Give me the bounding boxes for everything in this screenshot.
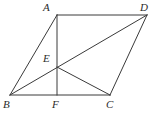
figure-canvas	[0, 0, 157, 127]
vertex-label-e: E	[43, 53, 50, 64]
vertex-label-a: A	[43, 2, 50, 13]
segment-BD	[10, 15, 147, 95]
segment-EC	[57, 67, 110, 95]
geometry-figure: A D E B F C	[0, 0, 157, 127]
vertex-label-c: C	[106, 99, 113, 110]
vertex-label-d: D	[140, 2, 148, 13]
vertex-label-f: F	[52, 99, 59, 110]
segment-DC	[110, 15, 147, 95]
vertex-label-b: B	[3, 99, 10, 110]
